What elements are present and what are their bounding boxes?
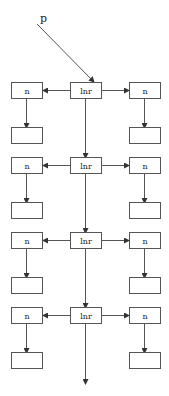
left-n-label: n <box>24 312 29 321</box>
lnr-label: lnr <box>80 312 92 321</box>
right-empty-node <box>130 353 161 369</box>
left-empty-node <box>12 203 43 219</box>
right-n-label: n <box>142 237 147 246</box>
left-n-label: n <box>24 237 29 246</box>
left-n-label: n <box>24 87 29 96</box>
linked-list-diagram: p lnrnnlnrnnlnrnnlnrnn <box>0 0 169 396</box>
pointer-arrow <box>37 24 94 82</box>
right-empty-node <box>130 203 161 219</box>
pointer-label: p <box>40 12 47 25</box>
left-n-label: n <box>24 162 29 171</box>
lnr-label: lnr <box>80 237 92 246</box>
right-empty-node <box>130 278 161 294</box>
right-n-label: n <box>142 87 147 96</box>
right-n-label: n <box>142 312 147 321</box>
pointer-p: p <box>37 12 94 82</box>
right-empty-node <box>130 128 161 144</box>
left-empty-node <box>12 278 43 294</box>
left-empty-node <box>12 128 43 144</box>
right-n-label: n <box>142 162 147 171</box>
left-empty-node <box>12 353 43 369</box>
lnr-label: lnr <box>80 87 92 96</box>
lnr-label: lnr <box>80 162 92 171</box>
